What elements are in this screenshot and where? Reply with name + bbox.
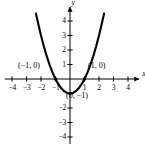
x-axis-arrow [134, 76, 139, 81]
parabola-plot-svg [0, 0, 145, 144]
x-tick-label-4: 4 [126, 84, 130, 92]
vertex-label: (0, −1) [66, 92, 88, 100]
left-intercept-label: (−1, 0) [18, 62, 40, 70]
x-tick-label-3: 3 [112, 84, 116, 92]
y-tick-label-2: 2 [62, 46, 66, 54]
x-axis-name: x [142, 70, 145, 78]
x-tick-label-1: 1 [83, 84, 87, 92]
x-tick-label-2: 2 [97, 84, 101, 92]
y-tick-label-neg3: −3 [58, 119, 66, 127]
x-tick-label-neg4: −4 [8, 84, 16, 92]
point-marker-x-intercept-right [83, 77, 86, 80]
y-tick-label-neg4: −4 [58, 133, 66, 141]
point-marker-x-intercept-left [54, 77, 57, 80]
y-tick-label-4: 4 [62, 17, 66, 25]
x-tick-label-neg3: −3 [23, 84, 31, 92]
y-axis-arrow [67, 7, 72, 12]
axes-group [5, 7, 140, 144]
y-tick-label-3: 3 [62, 32, 66, 40]
y-tick-label-neg2: −2 [58, 104, 66, 112]
y-tick-label-1: 1 [62, 61, 66, 69]
right-intercept-label: (1, 0) [88, 62, 105, 70]
y-axis-name: y [72, 0, 75, 6]
x-tick-label-neg1: −1 [52, 84, 60, 92]
parabola-figure: y x −4−3−2−112344321−2−3−4(−1, 0)(1, 0)(… [0, 0, 145, 144]
x-tick-label-neg2: −2 [37, 84, 45, 92]
